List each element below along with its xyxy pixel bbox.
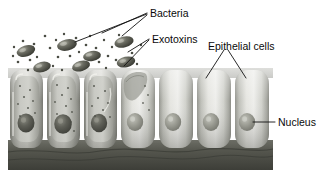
epithelial-cell-transitional [121, 70, 155, 148]
epithelium-exotoxin-diagram: Bacteria Exotoxins Epithelial cells Nucl… [0, 0, 321, 185]
bacterium [56, 37, 78, 52]
label-exotoxins: Exotoxins [152, 33, 198, 45]
epithelial-cell-healthy [235, 70, 269, 148]
epithelial-cell-damaged [47, 70, 80, 148]
label-bacteria: Bacteria [150, 7, 189, 19]
bacteria-leader-line [75, 14, 147, 42]
label-epithelial-cells: Epithelial cells [208, 40, 275, 52]
label-nucleus: Nucleus [278, 116, 316, 128]
bacterium [15, 43, 36, 59]
bacterium [113, 34, 135, 49]
epithelial-cell-healthy [197, 70, 231, 148]
bacterium [82, 50, 101, 63]
epithelial-cell-damaged [84, 70, 117, 148]
epithelial-cell-healthy [159, 70, 193, 148]
epithelial-cell-damaged [10, 70, 43, 148]
epithelium-illustration [8, 33, 273, 170]
